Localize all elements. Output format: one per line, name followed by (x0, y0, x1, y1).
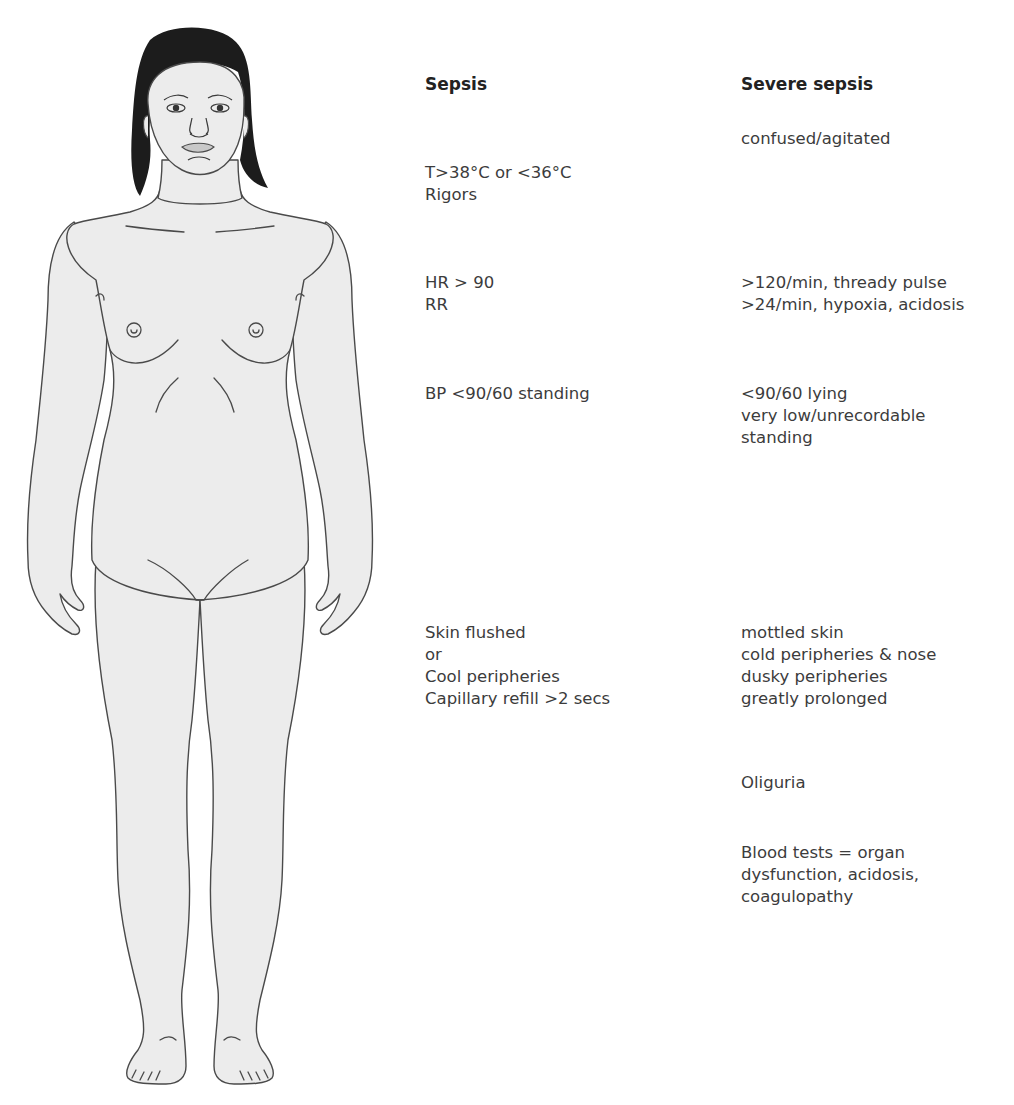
sepsis-temperature-group: T>38°C or <36°C Rigors (425, 162, 572, 206)
sepsis-heart-rate-line: HR > 90 (425, 272, 494, 294)
body-figure (0, 0, 400, 1105)
column-title-severe-sepsis: Severe sepsis (741, 74, 873, 94)
severe-blood-tests-line: dysfunction, acidosis, (741, 864, 919, 886)
severe-blood-tests-group: Blood tests = organ dysfunction, acidosi… (741, 842, 919, 908)
female-body-illustration (0, 0, 400, 1105)
severe-bp-line: standing (741, 427, 925, 449)
severe-bp-line: very low/unrecordable (741, 405, 925, 427)
severe-skin-line: greatly prolonged (741, 688, 936, 710)
sepsis-skin-line: Skin flushed (425, 622, 610, 644)
severe-urine-group: Oliguria (741, 772, 806, 794)
severe-skin-line: dusky peripheries (741, 666, 936, 688)
severe-heart-respiratory-group: >120/min, thready pulse >24/min, hypoxia… (741, 272, 964, 316)
sepsis-skin-line: Capillary refill >2 secs (425, 688, 610, 710)
severe-skin-group: mottled skin cold peripheries & nose dus… (741, 622, 936, 710)
sepsis-resp-rate-line: RR (425, 294, 494, 316)
sepsis-bp-line: BP <90/60 standing (425, 383, 590, 405)
severe-urine-line: Oliguria (741, 772, 806, 794)
sepsis-skin-line: or (425, 644, 610, 666)
severe-skin-line: cold peripheries & nose (741, 644, 936, 666)
sepsis-temperature-line: T>38°C or <36°C (425, 162, 572, 184)
sepsis-temperature-line: Rigors (425, 184, 572, 206)
severe-blood-pressure-group: <90/60 lying very low/unrecordable stand… (741, 383, 925, 449)
sepsis-heart-respiratory-group: HR > 90 RR (425, 272, 494, 316)
severe-heart-rate-line: >120/min, thready pulse (741, 272, 964, 294)
sepsis-blood-pressure-group: BP <90/60 standing (425, 383, 590, 405)
sepsis-skin-line: Cool peripheries (425, 666, 610, 688)
severe-blood-tests-line: coagulopathy (741, 886, 919, 908)
severe-blood-tests-line: Blood tests = organ (741, 842, 919, 864)
sepsis-skin-group: Skin flushed or Cool peripheries Capilla… (425, 622, 610, 710)
severe-mental-state-line: confused/agitated (741, 128, 891, 150)
severe-bp-line: <90/60 lying (741, 383, 925, 405)
severe-skin-line: mottled skin (741, 622, 936, 644)
severe-mental-state-group: confused/agitated (741, 128, 891, 150)
column-title-sepsis: Sepsis (425, 74, 487, 94)
severe-resp-rate-line: >24/min, hypoxia, acidosis (741, 294, 964, 316)
